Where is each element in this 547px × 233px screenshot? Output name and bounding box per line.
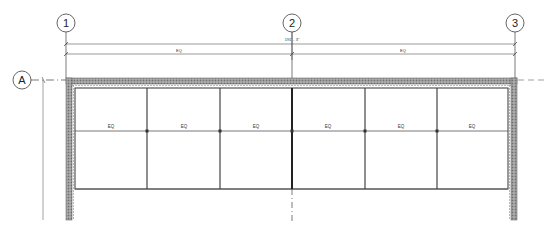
grid-label-a: A [18, 74, 26, 86]
curtain-wall: EQ EQ EQ EQ EQ EQ [75, 88, 508, 189]
node-5 [436, 130, 439, 133]
dimension-text-eq-2: EQ [400, 48, 406, 53]
panel-label-3: EQ [253, 124, 260, 129]
node-3 [291, 130, 294, 133]
panel-label-6: EQ [469, 124, 476, 129]
wall-top [66, 78, 517, 84]
wall-right [511, 78, 517, 220]
panel-label-4: EQ [325, 124, 332, 129]
node-4 [364, 130, 367, 133]
grid-1[interactable]: 1 [57, 14, 75, 78]
drawing-canvas: 1 2 3 A 191' - 3" EQ EQ [0, 0, 547, 233]
dimension-text-eq-1: EQ [176, 48, 182, 53]
panel-label-1: EQ [108, 124, 115, 129]
grid-label-3: 3 [512, 17, 518, 29]
grid-label-2: 2 [289, 17, 295, 29]
wall-left [66, 78, 72, 220]
node-2 [219, 130, 222, 133]
grid-label-1: 1 [63, 17, 69, 29]
grid-a[interactable]: A [13, 71, 547, 220]
node-1 [146, 130, 149, 133]
grid-3[interactable]: 3 [506, 14, 524, 78]
dimension-overall[interactable]: 191' - 3" [64, 37, 517, 46]
panel-label-5: EQ [398, 124, 405, 129]
panel-label-2: EQ [181, 124, 188, 129]
